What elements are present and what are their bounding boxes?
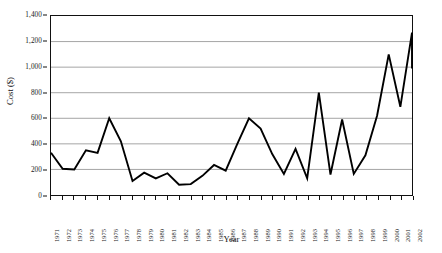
y-tick-mark — [43, 15, 47, 16]
x-tick-mark — [319, 196, 320, 200]
x-tick-mark — [226, 196, 227, 200]
x-tick-mark — [343, 196, 344, 200]
x-tick-mark — [191, 196, 192, 200]
y-axis-title: Cost ($) — [5, 56, 15, 126]
series-line — [51, 33, 412, 185]
y-tick-label: 400 — [31, 140, 42, 148]
x-tick-mark — [167, 196, 168, 200]
y-tick-mark — [43, 40, 47, 41]
x-axis-title: Year — [50, 234, 413, 244]
x-tick-label: 2002 — [416, 229, 423, 242]
x-tick-mark — [366, 196, 367, 200]
y-tick-mark — [43, 170, 47, 171]
x-tick-mark — [401, 196, 402, 200]
x-tick-mark — [249, 196, 250, 200]
x-tick-mark — [155, 196, 156, 200]
x-tick-mark — [85, 196, 86, 200]
plot-area — [50, 15, 413, 196]
y-tick-mark — [43, 92, 47, 93]
y-tick-label: 200 — [31, 166, 42, 174]
y-tick-mark — [43, 196, 47, 197]
x-tick-mark — [62, 196, 63, 200]
x-tick-mark — [144, 196, 145, 200]
x-tick-mark — [109, 196, 110, 200]
x-tick-mark — [296, 196, 297, 200]
x-tick-mark — [214, 196, 215, 200]
y-tick-label: 800 — [31, 89, 42, 97]
x-tick-mark — [354, 196, 355, 200]
x-tick-mark — [331, 196, 332, 200]
x-tick-mark — [308, 196, 309, 200]
y-tick-label: 1,000 — [25, 63, 42, 71]
x-tick-mark — [97, 196, 98, 200]
y-tick-label: 1,200 — [25, 37, 42, 45]
y-tick-label: 1,400 — [25, 11, 42, 19]
x-tick-mark — [284, 196, 285, 200]
x-tick-mark — [378, 196, 379, 200]
y-tick-label: 0 — [38, 192, 42, 200]
x-tick-mark — [202, 196, 203, 200]
x-tick-mark — [179, 196, 180, 200]
x-tick-mark — [132, 196, 133, 200]
y-tick-mark — [43, 144, 47, 145]
x-axis: 1971197219731974197519761977197819791980… — [50, 196, 413, 236]
line-series-cost — [51, 16, 412, 195]
x-tick-mark — [272, 196, 273, 200]
x-tick-mark — [120, 196, 121, 200]
y-tick-label: 600 — [31, 114, 42, 122]
y-tick-mark — [43, 66, 47, 67]
y-tick-mark — [43, 118, 47, 119]
x-tick-mark — [261, 196, 262, 200]
x-tick-mark — [73, 196, 74, 200]
x-tick-mark — [413, 196, 414, 200]
x-tick-mark — [390, 196, 391, 200]
x-tick-mark — [237, 196, 238, 200]
chart-figure: 02004006008001,0001,2001,400 Cost ($) 19… — [0, 0, 442, 253]
x-tick-mark — [50, 196, 51, 200]
